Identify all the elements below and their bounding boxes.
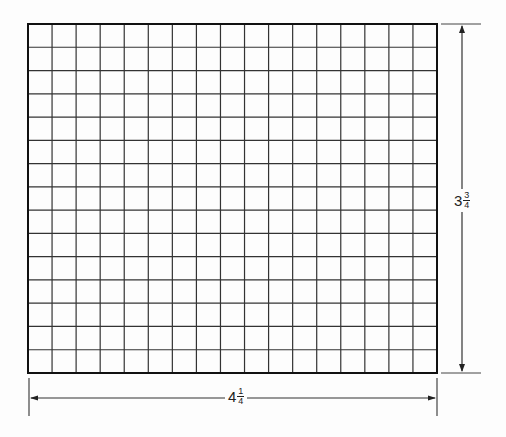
arrow-down-icon [459,364,465,372]
width-whole: 4 [228,388,236,405]
height-dimension-label: 3 3 4 [454,189,470,212]
grid-lines [28,24,437,373]
width-fraction: 1 4 [237,387,244,406]
height-fraction: 3 4 [463,191,470,210]
arrow-left-icon [30,396,38,401]
arrow-right-icon [428,396,436,401]
grid-drawing [0,0,506,437]
diagram-stage: 3 3 4 4 1 4 [0,0,506,437]
arrow-up-icon [459,25,465,33]
width-dimension-label: 4 1 4 [225,387,247,406]
width-denominator: 4 [237,397,244,406]
height-whole: 3 [454,192,462,209]
grid-border [28,24,437,373]
height-denominator: 4 [463,201,470,210]
